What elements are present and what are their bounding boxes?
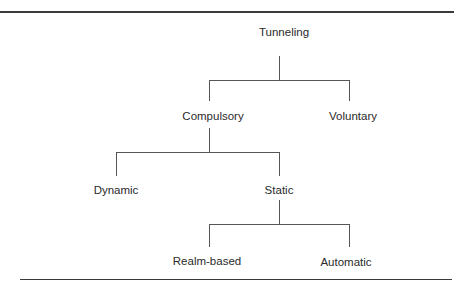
bottom-rule xyxy=(20,279,452,280)
connector-to-dynamic xyxy=(116,152,117,176)
node-compulsory: Compulsory xyxy=(182,110,243,122)
connector-to-static xyxy=(279,152,280,176)
connector-to-compulsory xyxy=(209,80,210,101)
node-automatic: Automatic xyxy=(320,256,371,268)
node-voluntary: Voluntary xyxy=(329,110,377,122)
connector-to-voluntary xyxy=(349,80,350,101)
connector-compulsory-bar xyxy=(116,152,280,153)
connector-static-stem xyxy=(279,200,280,224)
top-rule xyxy=(0,11,454,13)
node-realm-based: Realm-based xyxy=(173,255,241,267)
node-dynamic: Dynamic xyxy=(94,184,139,196)
connector-tunneling-stem xyxy=(279,56,280,80)
connector-tunneling-bar xyxy=(209,80,350,81)
node-tunneling: Tunneling xyxy=(259,26,309,38)
connector-compulsory-stem xyxy=(209,128,210,152)
connector-to-automatic xyxy=(349,224,350,247)
node-static: Static xyxy=(265,184,294,196)
connector-static-bar xyxy=(209,224,350,225)
connector-to-realm-based xyxy=(209,224,210,247)
